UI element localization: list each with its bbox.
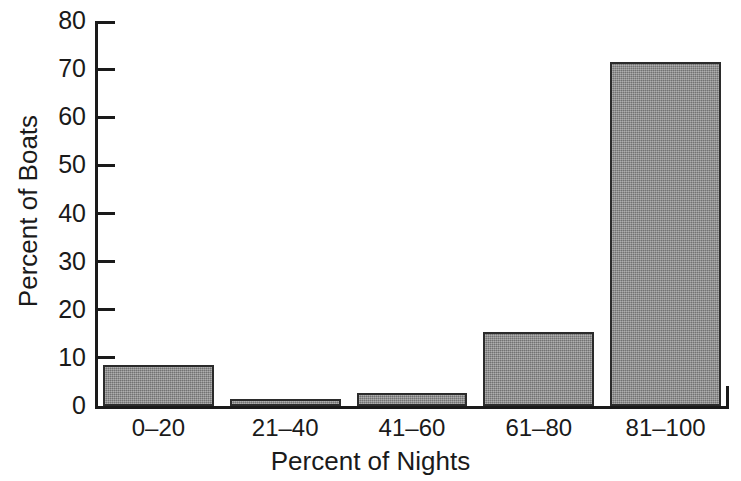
x-axis-tick-label: 81–100 [602, 414, 729, 442]
bar [483, 332, 594, 406]
y-axis-tick-label: 30 [58, 249, 86, 274]
y-axis-tick-label: 50 [58, 152, 86, 177]
y-axis-title: Percent of Boats [13, 61, 43, 361]
y-axis-tick-label: 0 [72, 393, 86, 418]
y-axis-tick-label: 60 [58, 104, 86, 129]
y-axis-tick-label: 10 [58, 345, 86, 370]
plot-area [95, 21, 729, 406]
x-axis-line [95, 406, 729, 409]
bar [357, 393, 468, 406]
bar [230, 399, 341, 406]
y-axis-tick-label: 80 [58, 8, 86, 33]
y-axis-tick-label: 20 [58, 297, 86, 322]
bar [103, 365, 214, 406]
bar [610, 62, 721, 406]
x-axis-tick-label: 41–60 [349, 414, 476, 442]
y-axis-tick-label: 70 [58, 56, 86, 81]
x-axis-title: Percent of Nights [0, 446, 741, 476]
y-axis-tick-label: 40 [58, 201, 86, 226]
chart-figure: Percent of Boats 01020304050607080 0–202… [0, 0, 741, 481]
x-axis-tick-label: 61–80 [475, 414, 602, 442]
x-axis-tick-label: 21–40 [222, 414, 349, 442]
x-axis-tick-label: 0–20 [95, 414, 222, 442]
